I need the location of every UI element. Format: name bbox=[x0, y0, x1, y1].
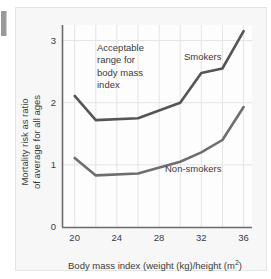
x-tick-label-20: 20 bbox=[63, 232, 87, 243]
x-tick-label-28: 28 bbox=[147, 232, 171, 243]
annotation-acceptable-range: Acceptable range for body mass index bbox=[97, 42, 144, 92]
y-tick-label-0: 0 bbox=[42, 221, 56, 232]
x-tick-label-36: 36 bbox=[232, 232, 256, 243]
x-axis-title: Body mass index (weight (kg)/height (m2) bbox=[44, 259, 266, 271]
series-label-nonsmokers: Non-smokers bbox=[165, 163, 222, 175]
x-tick-label-32: 32 bbox=[189, 232, 213, 243]
y-axis-title: Mortality risk as ratio of average for a… bbox=[19, 67, 43, 217]
y-tick-label-1: 1 bbox=[42, 159, 56, 170]
plot-background bbox=[62, 25, 252, 227]
x-tick-label-24: 24 bbox=[105, 232, 129, 243]
y-tick-label-2: 2 bbox=[42, 97, 56, 108]
y-tick-label-3: 3 bbox=[42, 35, 56, 46]
series-label-smokers: Smokers bbox=[184, 51, 221, 63]
chart-figure: Acceptable range for body mass index Smo… bbox=[0, 0, 271, 279]
